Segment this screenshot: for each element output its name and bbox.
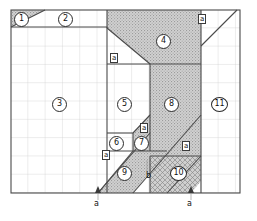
dim-a-axis-left: a (94, 199, 99, 208)
dim-a-region7: a (140, 123, 148, 133)
region-label-9[interactable]: 9 (117, 166, 132, 181)
region-label-7[interactable]: 7 (134, 136, 149, 151)
region-label-4[interactable]: 4 (156, 34, 171, 49)
dim-a-left-lower: a (102, 150, 110, 160)
region-label-1[interactable]: 1 (14, 12, 29, 27)
dim-a-top-right: a (198, 14, 206, 24)
dim-b-lower: b (146, 171, 151, 180)
dim-a-right-mid: a (182, 141, 190, 151)
region-label-2[interactable]: 2 (58, 12, 73, 27)
dim-a-upper-left: a (110, 53, 118, 63)
region-label-10[interactable]: 10 (170, 166, 187, 181)
dim-a-axis-right: a (187, 199, 192, 208)
region-label-8[interactable]: 8 (164, 97, 179, 112)
region-label-6[interactable]: 6 (109, 136, 124, 151)
region-label-3[interactable]: 3 (52, 97, 67, 112)
region-label-11[interactable]: 11 (211, 97, 228, 112)
figure-canvas: 1 2 3 4 5 6 7 8 9 10 11 a a a a a b a a (0, 0, 257, 221)
region-label-5[interactable]: 5 (117, 97, 132, 112)
